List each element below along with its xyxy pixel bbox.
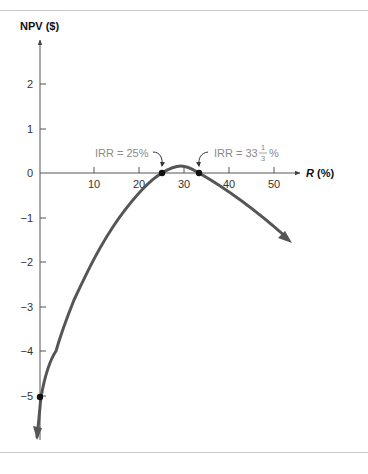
- y-tick-neg2: −2: [20, 256, 33, 268]
- y-tick-1: 1: [27, 123, 33, 135]
- y-tick-neg5: −5: [20, 390, 33, 402]
- curve-arrowhead-bottom: [33, 426, 42, 440]
- irr-33-fraction-numerator: 1: [261, 143, 266, 152]
- x-tick-50: 50: [268, 178, 280, 190]
- marker-irr-25: [159, 170, 165, 176]
- y-axis-title: NPV ($): [20, 20, 59, 32]
- x-axis-title: R (%): [306, 167, 334, 179]
- y-axis: 2 1 0 −1 −2 −3 −4 −5 NPV ($): [20, 20, 59, 440]
- y-tick-neg4: −4: [20, 345, 33, 357]
- irr-25-label: IRR = 25%: [95, 147, 149, 159]
- marker-npv-minus5: [37, 394, 43, 400]
- annotation-irr-25: IRR = 25%: [95, 147, 162, 166]
- irr-33-label-prefix: IRR = 33: [214, 147, 258, 159]
- x-axis: 10 20 30 40 50 R (%): [40, 167, 334, 190]
- y-tick-neg1: −1: [20, 212, 33, 224]
- irr-25-pointer-arrow: [153, 152, 162, 166]
- annotation-irr-33: IRR = 33 1 3 %: [199, 143, 279, 166]
- y-tick-neg3: −3: [20, 301, 33, 313]
- y-tick-0: 0: [27, 167, 33, 179]
- x-axis-title-var: R: [306, 167, 314, 179]
- npv-curve: [33, 166, 292, 440]
- y-tick-2: 2: [27, 78, 33, 90]
- x-tick-10: 10: [88, 178, 100, 190]
- irr-33-label-suffix: %: [269, 147, 279, 159]
- marker-irr-33: [196, 170, 202, 176]
- npv-profile-chart: 2 1 0 −1 −2 −3 −4 −5 NPV ($) 10 20 30 40…: [0, 0, 368, 474]
- x-tick-30: 30: [178, 178, 190, 190]
- irr-33-fraction-denominator: 3: [261, 154, 266, 163]
- x-axis-title-unit: (%): [314, 167, 335, 179]
- irr-33-pointer-arrow: [199, 152, 208, 166]
